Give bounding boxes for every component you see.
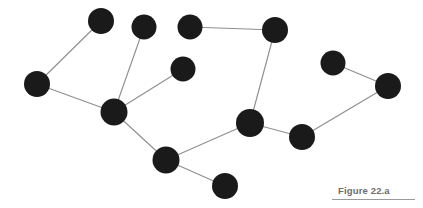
graph-canvas <box>0 0 423 208</box>
graph-node <box>88 8 114 34</box>
graph-node <box>24 71 50 97</box>
graph-node <box>178 15 203 40</box>
figure-caption-label: Figure 22.a <box>332 184 415 197</box>
graph-node <box>171 57 196 82</box>
graph-node <box>212 173 238 199</box>
figure-caption-block: Figure 22.a <box>332 184 415 200</box>
graph-node <box>132 15 157 40</box>
graph-edge <box>250 30 275 123</box>
graph-node <box>153 147 180 174</box>
figure-container: Figure 22.a <box>0 0 423 208</box>
graph-node <box>321 51 346 76</box>
graph-node <box>101 99 128 126</box>
graph-node-layer <box>24 8 401 199</box>
graph-node <box>289 124 315 150</box>
graph-edge <box>37 21 101 84</box>
graph-edge <box>114 27 144 112</box>
graph-node <box>236 109 264 137</box>
graph-node <box>375 73 401 99</box>
graph-node <box>262 17 288 43</box>
graph-edge-layer <box>37 21 388 186</box>
graph-edge <box>302 86 388 137</box>
caption-divider <box>332 199 415 200</box>
